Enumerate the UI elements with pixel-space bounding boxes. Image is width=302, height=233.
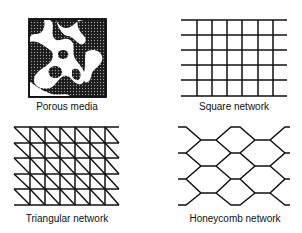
triangular-network-illustration [14, 127, 119, 205]
porous-media-label: Porous media [17, 101, 117, 112]
honeycomb-network-illustration [178, 127, 290, 205]
figure-canvas [0, 0, 302, 233]
triangular-network-label: Triangular network [12, 213, 122, 224]
square-network-label: Square network [184, 101, 284, 112]
square-network-illustration [181, 20, 287, 96]
honeycomb-network-label: Honeycomb network [178, 213, 292, 224]
porous-media-illustration [29, 19, 106, 97]
